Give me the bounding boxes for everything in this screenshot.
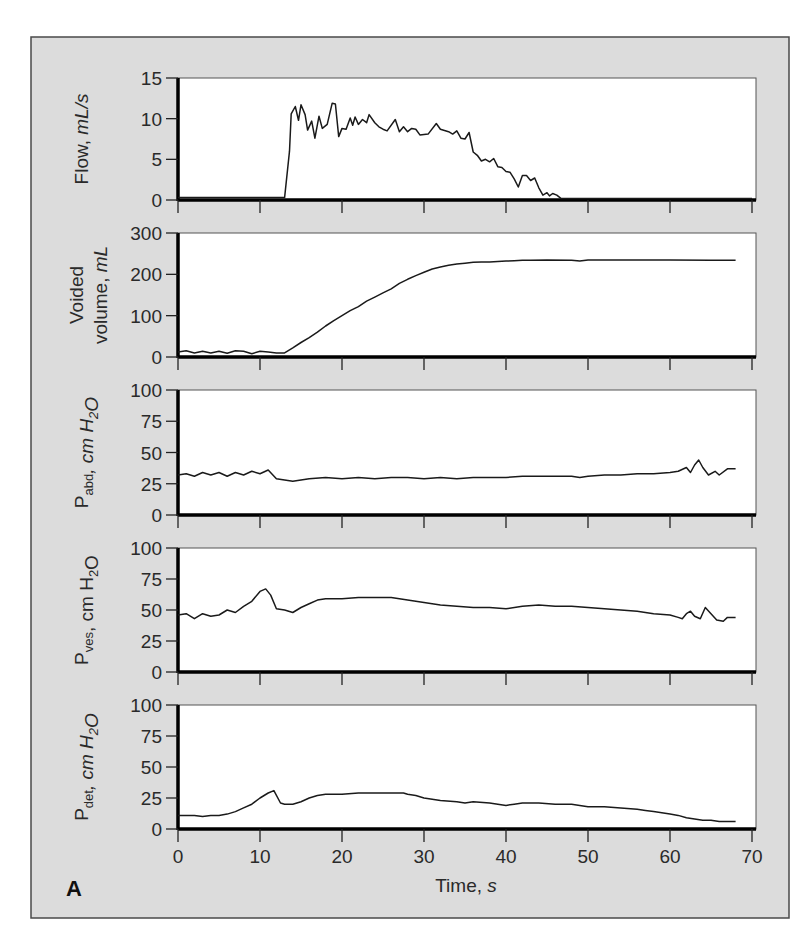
y-tick-label: 0 — [151, 505, 162, 526]
x-tick-label: 70 — [741, 846, 762, 867]
y-tick-label: 50 — [141, 443, 162, 464]
y-tick-label: 25 — [141, 788, 162, 809]
y-tick-label: 75 — [141, 726, 162, 747]
plot-area — [178, 548, 756, 672]
plot-area — [178, 390, 756, 515]
x-tick-label: 30 — [413, 846, 434, 867]
y-tick-label: 10 — [141, 109, 162, 130]
plot-area — [178, 78, 756, 200]
y-tick-label: 300 — [130, 223, 162, 244]
y-tick-label: 15 — [141, 68, 162, 89]
y-axis-label: volume, mL — [90, 246, 111, 344]
panel-letter: A — [66, 876, 82, 901]
y-tick-label: 200 — [130, 264, 162, 285]
y-tick-label: 100 — [130, 695, 162, 716]
x-axis-label: Time, s — [435, 875, 497, 896]
y-tick-label: 75 — [141, 411, 162, 432]
y-tick-label: 0 — [151, 190, 162, 211]
urodynamic-pressure-flow-figure: 051015Flow, mL/s0100200300Voidedvolume, … — [0, 0, 811, 945]
y-tick-label: 0 — [151, 662, 162, 683]
y-tick-label: 5 — [151, 149, 162, 170]
plot-area — [178, 233, 756, 357]
y-tick-label: 25 — [141, 474, 162, 495]
x-tick-label: 10 — [249, 846, 270, 867]
y-tick-label: 25 — [141, 631, 162, 652]
y-tick-label: 0 — [151, 347, 162, 368]
plot-area — [178, 705, 756, 829]
y-tick-label: 75 — [141, 569, 162, 590]
y-tick-label: 100 — [130, 538, 162, 559]
y-tick-label: 0 — [151, 819, 162, 840]
y-axis-label: Flow, mL/s — [71, 93, 92, 184]
x-tick-label: 60 — [659, 846, 680, 867]
y-tick-label: 100 — [130, 306, 162, 327]
y-tick-label: 100 — [130, 380, 162, 401]
x-tick-label: 50 — [577, 846, 598, 867]
x-tick-label: 20 — [331, 846, 352, 867]
x-tick-label: 0 — [173, 846, 184, 867]
y-tick-label: 50 — [141, 757, 162, 778]
y-tick-label: 50 — [141, 600, 162, 621]
y-axis-label: Voided — [66, 266, 87, 324]
x-tick-label: 40 — [495, 846, 516, 867]
